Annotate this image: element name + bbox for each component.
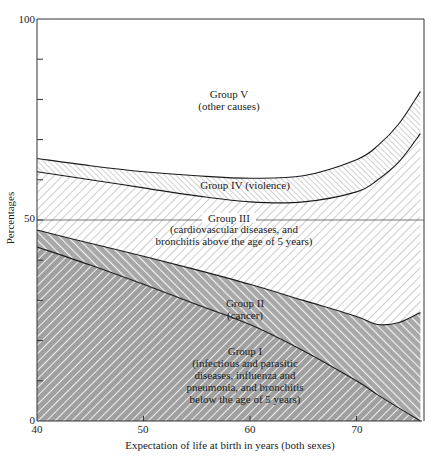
svg-text:bronchitis above the age of 5: bronchitis above the age of 5 years): [156, 235, 313, 248]
x-axis-title: Expectation of life at birth in years (b…: [125, 439, 335, 452]
svg-text:pneumonia, and bronchitis: pneumonia, and bronchitis: [186, 381, 303, 393]
svg-text:Group IV (violence): Group IV (violence): [200, 179, 290, 192]
svg-text:(cancer): (cancer): [227, 309, 263, 322]
stacked-area-chart: 100 50 0 40 50 60 70 Expectation of life…: [0, 0, 433, 458]
y-axis-title: Percentages: [4, 192, 16, 245]
x-tick-60: 60: [245, 423, 257, 435]
svg-text:Group II: Group II: [226, 297, 265, 309]
svg-text:Group I: Group I: [228, 345, 263, 357]
x-tick-40: 40: [32, 423, 44, 435]
label-group-ii: Group II (cancer): [226, 297, 265, 322]
y-tick-50: 50: [24, 212, 36, 224]
svg-text:(other causes): (other causes): [198, 100, 260, 113]
x-tick-70: 70: [352, 423, 364, 435]
svg-text:Group V: Group V: [210, 88, 249, 100]
svg-text:diseases, influenza and: diseases, influenza and: [194, 369, 296, 381]
x-tick-50: 50: [138, 423, 150, 435]
svg-text:below the age of 5 years): below the age of 5 years): [190, 393, 301, 406]
label-group-iv: Group IV (violence): [200, 179, 290, 192]
y-tick-100: 100: [19, 13, 36, 25]
